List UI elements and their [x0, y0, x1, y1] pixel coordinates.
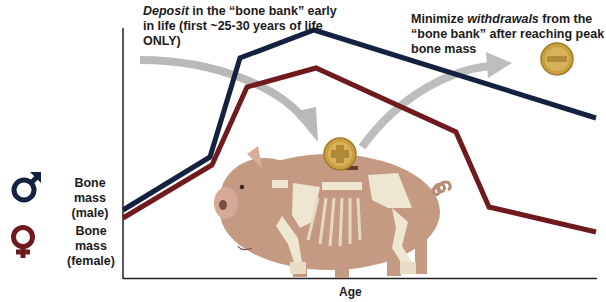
- x-axis-label: Age: [339, 285, 362, 299]
- legend-item-male: Bone mass (male): [6, 176, 124, 221]
- legend-label-female: Bone mass (female): [60, 224, 122, 269]
- legend-label-male: Bone mass (male): [60, 176, 120, 221]
- deposit-emphasis: Deposit: [143, 4, 189, 18]
- withdraw-annotation: Minimize withdrawals from the “bone bank…: [411, 12, 606, 57]
- legend-item-female: Bone mass (female): [6, 224, 124, 269]
- withdraw-emphasis: withdrawals: [467, 12, 539, 26]
- withdraw-prefix: Minimize: [411, 12, 467, 26]
- deposit-annotation: Deposit in the “bone bank” early in life…: [143, 4, 343, 49]
- plus-coin-icon: [324, 138, 356, 170]
